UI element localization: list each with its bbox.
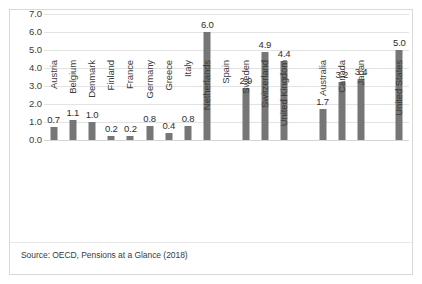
x-axis-label-text: Finland	[105, 60, 117, 156]
x-axis-label-text: Sweden	[240, 60, 252, 156]
x-axis-label: Sweden	[236, 142, 255, 238]
x-axis-label: United States	[390, 142, 409, 238]
x-axis-label-text: Denmark	[86, 60, 98, 156]
x-axis-label: Japan	[351, 142, 370, 238]
x-axis-label: United Kingdom	[275, 142, 294, 238]
x-axis-label-text: Spain	[220, 60, 232, 156]
y-axis-tick-label: 6.0	[10, 27, 42, 37]
chart-figure: 0.01.02.03.04.05.06.07.0 0.71.11.00.20.2…	[9, 9, 413, 275]
x-axis-label: Switzerland	[255, 142, 274, 238]
x-axis-label-text: Canada	[336, 60, 348, 156]
x-axis-label-text: Netherlands	[201, 60, 213, 156]
x-axis-label: Austria	[44, 142, 63, 238]
x-axis-label-text: Austria	[48, 60, 60, 156]
x-axis-label: Greece	[159, 142, 178, 238]
y-axis-tick-label: 1.0	[10, 117, 42, 127]
bar-value-label: 4.4	[278, 49, 291, 59]
x-axis-label: Germany	[140, 142, 159, 238]
y-axis-tick-label: 5.0	[10, 45, 42, 55]
x-axis-label: Netherlands	[198, 142, 217, 238]
x-axis-label-text: Switzerland	[259, 60, 271, 156]
source-divider	[10, 242, 414, 243]
x-axis-label	[371, 142, 390, 238]
bar-value-label: 5.0	[393, 38, 406, 48]
x-axis-label-text: United States	[393, 60, 405, 156]
x-axis-label: Canada	[332, 142, 351, 238]
bar-column	[371, 14, 390, 140]
x-axis-label: Finland	[102, 142, 121, 238]
x-axis-label-text: Australia	[317, 60, 329, 156]
y-axis-tick-label: 7.0	[10, 9, 42, 19]
bar-value-label: 4.9	[259, 40, 272, 50]
x-axis-label	[294, 142, 313, 238]
y-axis-tick-label: 4.0	[10, 63, 42, 73]
x-axis-category-labels: AustriaBelgiumDenmarkFinlandFranceGerman…	[44, 142, 409, 238]
x-axis-label-text: Germany	[144, 60, 156, 156]
source-note: Source: OECD, Pensions at a Glance (2018…	[21, 250, 188, 260]
x-axis-label: Spain	[217, 142, 236, 238]
y-axis: 0.01.02.03.04.05.06.07.0	[10, 14, 44, 144]
bar-value-label: 6.0	[201, 20, 214, 30]
plot-area: 0.01.02.03.04.05.06.07.0 0.71.11.00.20.2…	[10, 14, 414, 240]
y-axis-tick-label: 3.0	[10, 81, 42, 91]
y-axis-tick-label: 2.0	[10, 99, 42, 109]
x-axis-label: Denmark	[82, 142, 101, 238]
x-axis-label: Australia	[313, 142, 332, 238]
x-axis-label: Italy	[178, 142, 197, 238]
x-axis-label-text: United Kingdom	[278, 60, 290, 156]
x-axis-label-text: Italy	[182, 60, 194, 156]
x-axis-label-text: Japan	[355, 60, 367, 156]
x-axis-label-text: Greece	[163, 60, 175, 156]
x-axis-label: Belgium	[63, 142, 82, 238]
y-axis-tick-label: 0.0	[10, 135, 42, 145]
x-axis-label-text: Belgium	[67, 60, 79, 156]
x-axis-label: France	[121, 142, 140, 238]
x-axis-label-text: France	[124, 60, 136, 156]
bar-column	[294, 14, 313, 140]
